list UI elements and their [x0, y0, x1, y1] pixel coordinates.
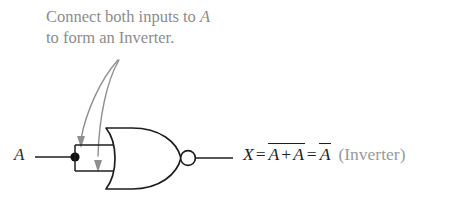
expression-term-a2: A: [293, 144, 304, 164]
expression-result-overbar: A: [319, 144, 332, 165]
expression-inverter-note: (Inverter): [338, 144, 405, 164]
expression-output-var: X: [243, 144, 254, 164]
output-expression: X=A+A=A(Inverter): [243, 144, 405, 165]
nor-gate-circuit-diagram: [0, 0, 471, 205]
expression-plus: +: [279, 144, 293, 164]
expression-result-var: A: [320, 144, 331, 164]
nor-gate-body: [106, 128, 181, 189]
expression-term-a1: A: [269, 144, 280, 164]
input-signal-label: A: [14, 145, 24, 165]
expression-equals-1: =: [254, 144, 268, 164]
expression-equals-2: =: [305, 144, 319, 164]
figure-canvas: Connect both inputs to A to form an Inve…: [0, 0, 471, 205]
inverting-bubble-icon: [181, 151, 196, 166]
expression-nor-overbar: A+A: [268, 144, 305, 165]
